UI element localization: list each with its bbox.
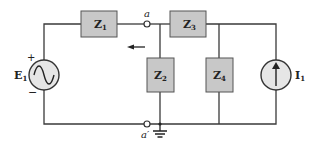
impedance-z2: Z2	[147, 58, 174, 92]
ground-icon	[153, 124, 167, 137]
node-a-terminal	[144, 21, 150, 27]
node-a-prime-terminal	[144, 121, 150, 127]
current-source-icon	[261, 60, 291, 90]
minus-sign: −	[28, 86, 37, 99]
node-a-label: a	[144, 8, 150, 19]
impedance-z3: Z3	[170, 11, 206, 37]
arrow-left-icon	[127, 45, 145, 50]
impedance-z1: Z1	[81, 11, 117, 37]
node-a-prime-label: a′	[141, 129, 150, 140]
plus-sign: +	[27, 52, 35, 63]
circuit-diagram: Z1 Z3 Z2 Z4 + − E1 I1 a a′	[0, 0, 314, 150]
source-current-label: I1	[295, 69, 305, 83]
source-voltage-label: E1	[14, 69, 27, 83]
impedance-z4: Z4	[206, 58, 233, 92]
